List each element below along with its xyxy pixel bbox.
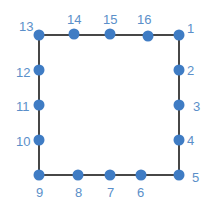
point-label-7: 7 (107, 185, 114, 200)
point-label-16: 16 (137, 12, 151, 27)
point-label-8: 8 (75, 185, 82, 200)
point-label-4: 4 (187, 133, 194, 148)
point-label-2: 2 (187, 63, 194, 78)
point-label-1: 1 (187, 21, 194, 36)
point-label-13: 13 (19, 19, 33, 34)
point-11 (34, 100, 45, 111)
point-5 (174, 170, 185, 181)
point-label-11: 11 (16, 99, 30, 114)
point-14 (69, 29, 80, 40)
point-7 (105, 170, 116, 181)
point-4 (174, 135, 185, 146)
point-3 (174, 100, 185, 111)
point-label-9: 9 (36, 185, 43, 200)
point-16 (143, 31, 154, 42)
point-8 (73, 170, 84, 181)
point-13 (34, 30, 45, 41)
point-label-12: 12 (16, 65, 30, 80)
point-label-14: 14 (67, 12, 81, 27)
square-outline (39, 35, 179, 175)
square-point-diagram: 12345678910111213141516 (0, 0, 211, 207)
point-1 (174, 30, 185, 41)
points-group (34, 29, 185, 181)
point-label-15: 15 (103, 12, 117, 27)
point-12 (34, 65, 45, 76)
point-15 (105, 29, 116, 40)
point-6 (136, 170, 147, 181)
point-2 (174, 65, 185, 76)
point-label-10: 10 (16, 134, 30, 149)
point-9 (34, 170, 45, 181)
point-label-5: 5 (192, 170, 199, 185)
point-10 (34, 135, 45, 146)
point-label-3: 3 (193, 99, 200, 114)
point-label-6: 6 (137, 185, 144, 200)
